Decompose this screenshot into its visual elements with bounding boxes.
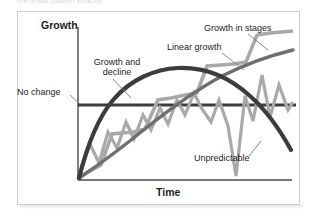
figure-frame — [17, 11, 300, 205]
figure-page: the linear pattern exactly. — [0, 0, 316, 216]
annotation-label-linear-growth: Linear growth — [167, 42, 222, 52]
cropped-caption-text: the linear pattern exactly. — [17, 0, 217, 5]
annotation-label-unpredictable: Unpredictable — [194, 153, 250, 163]
y-axis-title: Growth — [41, 20, 78, 31]
annotation-label-growth-and-decline: Growth and decline — [88, 57, 146, 77]
x-axis-title: Time — [156, 187, 180, 198]
annotation-label-growth-in-stages: Growth in stages — [204, 23, 272, 33]
figure-drop-shadow — [20, 205, 303, 209]
annotation-label-no-change: No change — [17, 87, 61, 97]
